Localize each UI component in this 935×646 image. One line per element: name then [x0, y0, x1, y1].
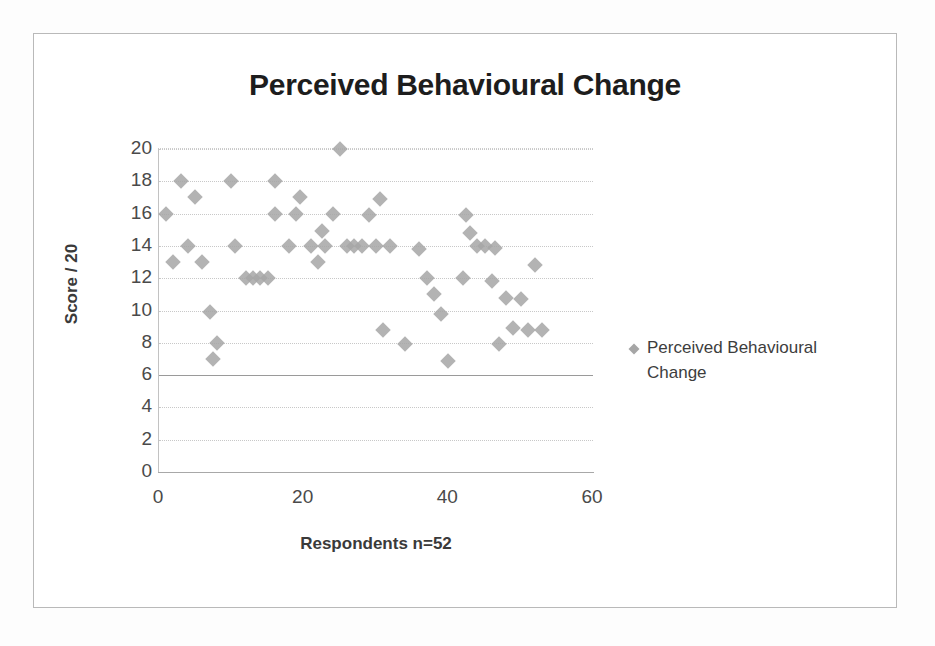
legend-item-label: Perceived Behavioural Change [647, 336, 858, 385]
y-tick-label: 14 [106, 234, 152, 256]
data-point-marker [412, 241, 428, 257]
y-axis-tick-labels: 02468101214161820 [96, 148, 152, 472]
chart-title: Perceived Behavioural Change [34, 68, 896, 102]
data-point-marker [513, 291, 529, 307]
data-point-marker [227, 238, 243, 254]
y-tick-label: 16 [106, 202, 152, 224]
x-axis-title: Respondents n=52 [158, 534, 594, 554]
chart-legend: Perceived Behavioural Change [628, 336, 858, 385]
plot-area [158, 148, 593, 472]
data-point-marker [180, 238, 196, 254]
data-point-marker [325, 206, 341, 222]
data-point-marker [455, 270, 471, 286]
data-point-marker [173, 174, 189, 190]
y-tick-label: 12 [106, 266, 152, 288]
x-axis-tick-labels: 0204060 [158, 486, 594, 514]
data-point-marker [267, 174, 283, 190]
data-point-marker [209, 335, 225, 351]
x-axis-line [158, 472, 594, 473]
y-tick-label: 20 [106, 137, 152, 159]
data-point-marker [535, 322, 551, 338]
data-point-marker [289, 206, 305, 222]
data-point-marker [314, 224, 330, 240]
data-point-marker [202, 304, 218, 320]
y-axis-title: Score / 20 [62, 214, 82, 354]
data-point-marker [281, 238, 297, 254]
y-tick-label: 10 [106, 299, 152, 321]
chart-screenshot: Perceived Behavioural Change Score / 20 … [0, 0, 935, 646]
gridline [159, 149, 593, 150]
data-point-marker [158, 206, 174, 222]
data-point-marker [318, 238, 334, 254]
data-point-marker [484, 274, 500, 290]
data-point-marker [292, 190, 308, 206]
x-tick-label: 0 [153, 486, 164, 508]
data-point-marker [310, 254, 326, 270]
gridline [159, 278, 593, 279]
data-point-marker [332, 141, 348, 157]
data-point-marker [527, 257, 543, 273]
y-tick-label: 0 [106, 460, 152, 482]
data-point-marker [372, 191, 388, 207]
data-point-marker [195, 254, 211, 270]
data-point-marker [375, 322, 391, 338]
x-tick-label: 60 [581, 486, 602, 508]
data-point-marker [361, 207, 377, 223]
diamond-marker-icon [628, 341, 640, 359]
data-point-marker [383, 238, 399, 254]
x-tick-label: 40 [437, 486, 458, 508]
y-tick-label: 4 [106, 395, 152, 417]
y-tick-label: 18 [106, 169, 152, 191]
data-point-marker [224, 174, 240, 190]
data-point-marker [419, 270, 435, 286]
gridline [159, 375, 593, 376]
y-tick-label: 8 [106, 331, 152, 353]
chart-frame: Perceived Behavioural Change Score / 20 … [33, 33, 897, 608]
data-point-marker [426, 287, 442, 303]
data-point-marker [205, 351, 221, 367]
y-tick-label: 2 [106, 428, 152, 450]
data-point-marker [459, 207, 475, 223]
y-tick-label: 6 [106, 363, 152, 385]
gridline [159, 311, 593, 312]
data-point-marker [397, 337, 413, 353]
data-point-marker [187, 190, 203, 206]
data-point-marker [498, 290, 514, 306]
data-point-marker [506, 320, 522, 336]
data-point-marker [441, 353, 457, 369]
data-point-marker [166, 254, 182, 270]
gridline [159, 407, 593, 408]
data-point-marker [491, 337, 507, 353]
data-point-marker [267, 206, 283, 222]
gridline [159, 440, 593, 441]
data-point-marker [433, 306, 449, 322]
data-point-marker [488, 240, 504, 256]
x-tick-label: 20 [292, 486, 313, 508]
